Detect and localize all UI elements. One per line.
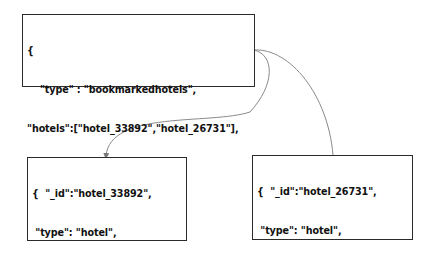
json-line: { (27, 44, 250, 57)
json-line: "hotels":["hotel_33892","hotel_26731"], (27, 122, 250, 135)
json-line: "type": "hotel", (32, 226, 182, 239)
connector-to-hotel-26731 (254, 50, 333, 155)
json-line: "type": "hotel", (257, 224, 408, 237)
json-line: { "_id":"hotel_33892", (32, 187, 182, 200)
hotel-document-box-33892: { "_id":"hotel_33892", "type": "hotel", … (27, 157, 187, 241)
bookmark-document-box: { "type" : "bookmarkedhotels", "hotels":… (22, 14, 255, 87)
hotel-document-box-26731: { "_id":"hotel_26731", "type": "hotel", … (252, 155, 413, 240)
json-line: "type" : "bookmarkedhotels", (27, 83, 250, 96)
json-line: { "_id":"hotel_26731", (257, 185, 408, 198)
